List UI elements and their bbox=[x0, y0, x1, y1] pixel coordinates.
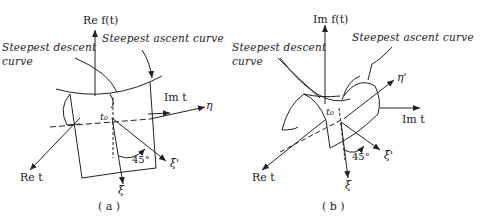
panel-a-xi-label: ξ bbox=[118, 185, 124, 196]
panel-b-descent-label-2: curve bbox=[232, 56, 263, 67]
panel-b-xi-label: ξ bbox=[345, 180, 351, 191]
panel-a-ascent-label: Steepest ascent curve bbox=[102, 33, 224, 44]
panel-b-angle-label: 45° bbox=[352, 152, 370, 162]
panel-a-descent-label: Steepest descent bbox=[2, 42, 96, 53]
panel-b-eta-prime-label: η' bbox=[397, 72, 407, 83]
panel-b-caption: ( b ) bbox=[322, 201, 345, 212]
panel-b-ascent-label: Steepest ascent curve bbox=[352, 32, 474, 43]
ascent-curve bbox=[56, 76, 162, 94]
panel-b-re-t-label: Re t bbox=[252, 172, 275, 183]
descent-leader bbox=[75, 58, 117, 92]
panel-a-xi-prime-label: ξ' bbox=[170, 158, 179, 169]
panel-b-im-t-label: Im t bbox=[402, 114, 425, 125]
ascent-leader bbox=[142, 50, 152, 78]
panel-a-im-t-label: Im t bbox=[164, 92, 187, 103]
panel-a-t0-label: t₀ bbox=[100, 112, 108, 122]
descent-curve bbox=[280, 58, 350, 101]
panel-a-caption: ( a ) bbox=[98, 201, 120, 212]
xi-axis bbox=[112, 118, 123, 184]
panel-a-eta-label: η bbox=[206, 100, 213, 111]
panel-b-t0-label: t₀ bbox=[326, 107, 334, 117]
panel-a-descent-label-2: curve bbox=[2, 56, 33, 67]
panel-b-descent-label: Steepest descent bbox=[232, 42, 326, 53]
panel-a-angle-label: 45° bbox=[132, 155, 150, 165]
panel-b-vertical-axis-label: Im f(t) bbox=[313, 14, 348, 25]
panel-a-re-t-label: Re t bbox=[20, 172, 43, 183]
panel-b-xi-prime-label: ξ' bbox=[384, 150, 393, 161]
panel-a-vertical-axis-label: Re f(t) bbox=[83, 15, 118, 26]
re-t-axis bbox=[30, 118, 80, 170]
eta-axis bbox=[150, 107, 205, 119]
